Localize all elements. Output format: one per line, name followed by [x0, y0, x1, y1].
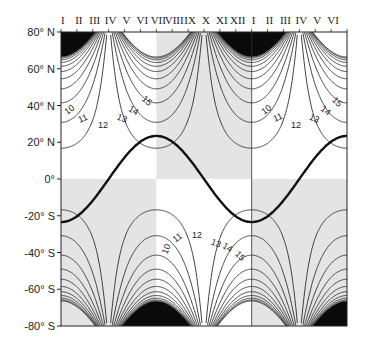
contour-level-label: 12: [192, 230, 202, 240]
month-label: I: [61, 14, 65, 26]
y-tick-label: -20° S: [24, 210, 55, 222]
x-axis-months: IIIIIIIVVVIVIIVIIIIXXXIXIIIIIIIIIVVVI: [61, 14, 347, 32]
month-label: II: [266, 14, 274, 26]
contour-level-label: 12: [98, 120, 108, 130]
contour-level-label: 12: [291, 120, 301, 130]
month-label: IV: [105, 14, 117, 26]
contour-line: [305, 33, 348, 103]
month-label: VIII: [165, 14, 184, 26]
month-label: IV: [295, 14, 307, 26]
y-tick-label: -80° S: [24, 320, 55, 332]
month-label: III: [89, 14, 100, 26]
month-label: XI: [216, 14, 228, 26]
contour-line: [306, 33, 347, 89]
y-tick-label: 60° N: [27, 63, 55, 75]
month-label: X: [202, 14, 210, 26]
month-label: XII: [230, 14, 246, 26]
month-label: V: [313, 14, 321, 26]
y-axis: 80° N60° N40° N20° N0°-20° S-40° S-60° S…: [24, 26, 61, 332]
y-tick-label: 80° N: [27, 26, 55, 38]
month-label: III: [280, 14, 291, 26]
y-tick-label: 20° N: [27, 136, 55, 148]
month-label: VI: [327, 14, 339, 26]
month-label: V: [123, 14, 131, 26]
y-tick-label: -40° S: [24, 247, 55, 259]
month-label: VI: [137, 14, 149, 26]
contour-line: [312, 32, 347, 58]
month-label: I: [252, 14, 256, 26]
y-tick-label: 0°: [44, 173, 55, 185]
month-label: II: [75, 14, 83, 26]
y-tick-label: 40° N: [27, 100, 55, 112]
month-label: IX: [184, 14, 196, 26]
day-length-chart: 80° N60° N40° N20° N0°-20° S-40° S-60° S…: [0, 0, 367, 347]
y-tick-label: -60° S: [24, 283, 55, 295]
